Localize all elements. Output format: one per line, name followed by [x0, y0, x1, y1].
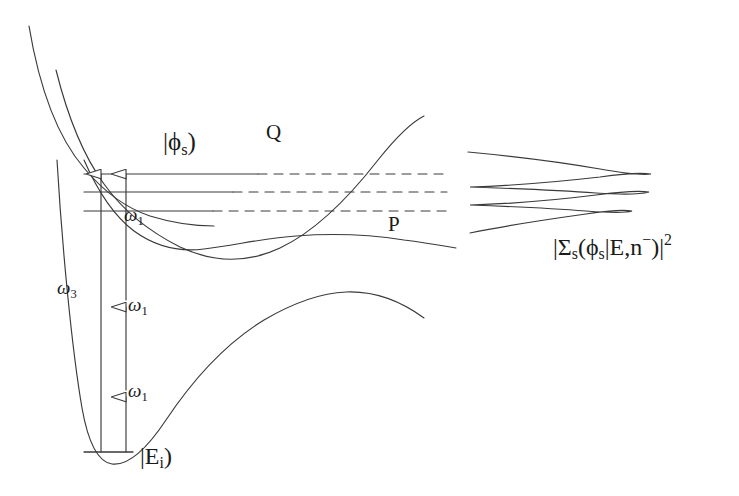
- omega-glyph: ω: [128, 380, 141, 401]
- omega1-middle-label: ω1: [128, 295, 148, 317]
- omega-subscript: 3: [70, 287, 76, 301]
- omega1-upper-label: ω1: [124, 205, 144, 227]
- ket-bar: |ϕ: [163, 128, 181, 155]
- q-curve-label: Q: [266, 122, 281, 143]
- sigma-open: |Σ: [553, 234, 572, 260]
- spectrum-args: E,n: [610, 234, 643, 260]
- upper-repulsive-curve: [29, 26, 214, 226]
- spectrum-formula-label: |Σs(ϕs|E,n−)|2: [553, 232, 672, 262]
- ket-close: ): [188, 128, 196, 155]
- p-curve-label: P: [388, 214, 400, 235]
- omega1-lower-label: ω1: [128, 381, 148, 403]
- phi-open: (ϕ: [578, 234, 599, 260]
- omega3-label: ω3: [57, 278, 77, 300]
- omega-glyph: ω: [57, 277, 70, 298]
- potential-energy-diagram: |ϕs) Q P ω1 ω1 ω1 ω3 |Ei) |Σs(ϕs|E,n−)|2: [0, 0, 739, 496]
- excited-state-ket-label: |ϕs): [163, 129, 196, 158]
- omega-glyph: ω: [124, 204, 137, 225]
- omega-subscript: 1: [141, 304, 147, 318]
- square-exponent: 2: [664, 231, 672, 248]
- spectrum-close: )|: [651, 234, 664, 260]
- omega-subscript: 1: [137, 214, 143, 228]
- minus-superscript: −: [642, 231, 651, 248]
- ground-curve: [57, 160, 424, 464]
- omega-subscript: 1: [141, 390, 147, 404]
- ket-close: ): [164, 443, 172, 469]
- spectrum-peak-curve: [468, 152, 651, 233]
- initial-state-ket-label: |Ei): [140, 444, 172, 471]
- ket-bar: |E: [140, 443, 159, 469]
- q-curve: [56, 70, 424, 259]
- omega-glyph: ω: [128, 294, 141, 315]
